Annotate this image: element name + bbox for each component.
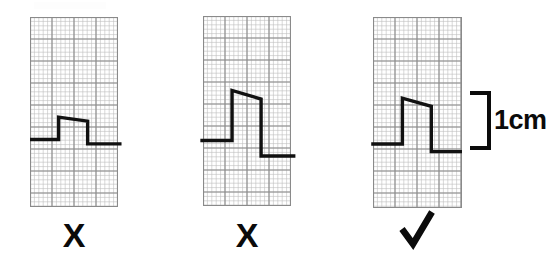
scale-bracket-label: 1cm: [494, 107, 547, 134]
verdict-mark-panel-2: X: [217, 218, 277, 252]
scan-artifact: [34, 2, 106, 9]
ecg-calibration-figure: 1cm X X: [0, 0, 556, 263]
ecg-panel-correct: [373, 17, 462, 208]
verdict-mark-panel-1: X: [44, 218, 104, 252]
ecg-trace-1: [30, 17, 118, 207]
ecg-trace-2: [203, 16, 291, 206]
ecg-panel-too-large: [203, 16, 291, 206]
ecg-panel-too-small: [30, 17, 118, 207]
ecg-trace-3: [373, 17, 462, 208]
